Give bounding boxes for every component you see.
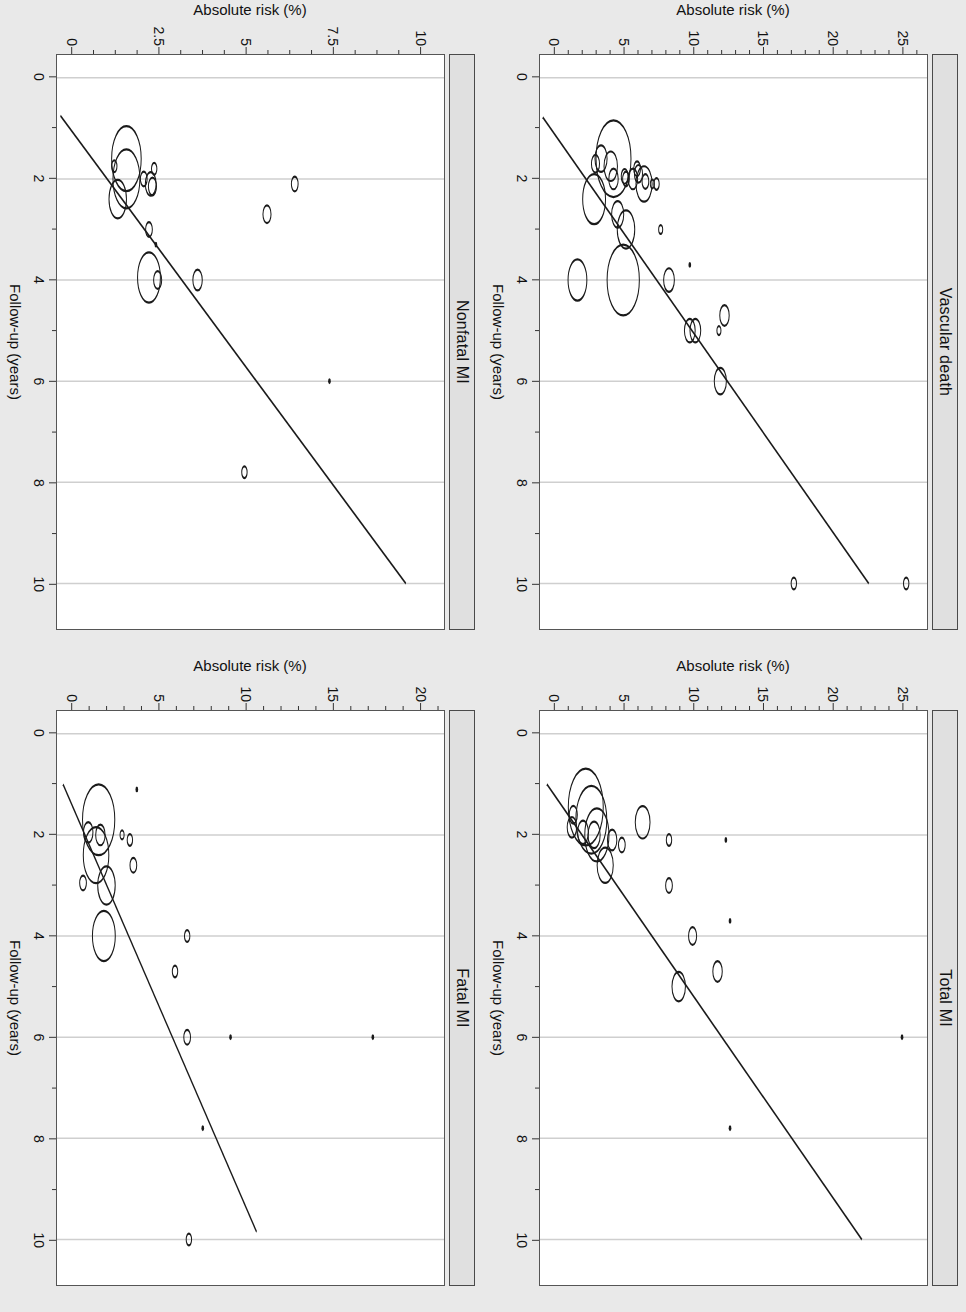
x-tick-label: 10: [31, 1233, 47, 1249]
plot-svg-total-mi: [540, 711, 927, 1285]
x-tick-label: 6: [514, 1033, 530, 1041]
y-tick-label: 0: [64, 10, 80, 46]
x-tick-label: 2: [31, 830, 47, 838]
x-tick-label: 8: [31, 1135, 47, 1143]
panel-title: Fatal MI: [453, 968, 471, 1027]
panel-vascular-death: Vascular death Absolute risk (%) Follow-…: [483, 0, 966, 656]
y-tick-label: 7.5: [325, 10, 341, 46]
panel-title: Total MI: [936, 969, 954, 1027]
x-tick-label: 0: [31, 729, 47, 737]
x-tick-label: 6: [514, 377, 530, 385]
y-tick-label: 10: [238, 666, 254, 702]
x-tick-label: 2: [514, 830, 530, 838]
x-tick-label: 4: [31, 932, 47, 940]
x-tick-label: 6: [31, 377, 47, 385]
y-tick-label: 5: [151, 666, 167, 702]
y-tick-label: 20: [825, 666, 841, 702]
x-tick-label: 8: [31, 479, 47, 487]
figure-page: Vascular death Absolute risk (%) Follow-…: [0, 0, 966, 1312]
x-tick-label: 4: [31, 276, 47, 284]
y-tick-label: 25: [895, 666, 911, 702]
y-tick-label: 5: [616, 10, 632, 46]
x-axis-title: Follow-up (years): [4, 710, 24, 1286]
x-tick-label: 0: [514, 73, 530, 81]
y-tick-label: 15: [325, 666, 341, 702]
x-tick-label: 8: [514, 1135, 530, 1143]
y-tick-label: 0: [546, 10, 562, 46]
plot-svg-vascular-death: [540, 55, 927, 629]
y-tick-label: 15: [755, 666, 771, 702]
x-tick-label: 10: [514, 1233, 530, 1249]
y-tick-label: 2.5: [151, 10, 167, 46]
panel-title: Nonfatal MI: [453, 300, 471, 384]
x-tick-label: 4: [514, 276, 530, 284]
y-tick-label: 20: [413, 666, 429, 702]
x-axis-title: Follow-up (years): [487, 54, 507, 630]
strip-fatal-mi: Fatal MI: [449, 710, 475, 1286]
strip-total-mi: Total MI: [932, 710, 958, 1286]
plot-area-vascular-death: [539, 54, 928, 630]
x-tick-label: 0: [514, 729, 530, 737]
figure-canvas: Vascular death Absolute risk (%) Follow-…: [0, 0, 966, 1312]
y-tick-label: 10: [686, 666, 702, 702]
plot-svg-nonfatal-mi: [57, 55, 444, 629]
panel-fatal-mi: Fatal MI Absolute risk (%) Follow-up (ye…: [0, 656, 483, 1312]
y-tick-label: 5: [238, 10, 254, 46]
x-tick-label: 2: [31, 174, 47, 182]
plot-area-fatal-mi: [56, 710, 445, 1286]
plot-svg-fatal-mi: [57, 711, 444, 1285]
y-axis-title: Absolute risk (%): [539, 656, 928, 674]
x-tick-label: 6: [31, 1033, 47, 1041]
plot-area-nonfatal-mi: [56, 54, 445, 630]
strip-nonfatal-mi: Nonfatal MI: [449, 54, 475, 630]
y-tick-label: 0: [546, 666, 562, 702]
x-axis-title: Follow-up (years): [487, 710, 507, 1286]
y-tick-label: 0: [64, 666, 80, 702]
panel-title: Vascular death: [936, 288, 954, 396]
y-tick-label: 10: [413, 10, 429, 46]
x-tick-label: 4: [514, 932, 530, 940]
y-axis-title: Absolute risk (%): [539, 0, 928, 18]
panel-total-mi: Total MI Absolute risk (%) Follow-up (ye…: [483, 656, 966, 1312]
x-tick-label: 0: [31, 73, 47, 81]
plot-area-total-mi: [539, 710, 928, 1286]
y-tick-label: 20: [825, 10, 841, 46]
y-tick-label: 5: [616, 666, 632, 702]
y-tick-label: 10: [686, 10, 702, 46]
panel-nonfatal-mi: Nonfatal MI Absolute risk (%) Follow-up …: [0, 0, 483, 656]
x-tick-label: 2: [514, 174, 530, 182]
x-tick-label: 8: [514, 479, 530, 487]
x-tick-label: 10: [514, 577, 530, 593]
x-axis-title: Follow-up (years): [4, 54, 24, 630]
panel-grid: Vascular death Absolute risk (%) Follow-…: [0, 0, 966, 1312]
x-tick-label: 10: [31, 577, 47, 593]
strip-vascular-death: Vascular death: [932, 54, 958, 630]
y-tick-label: 15: [755, 10, 771, 46]
y-tick-label: 25: [895, 10, 911, 46]
